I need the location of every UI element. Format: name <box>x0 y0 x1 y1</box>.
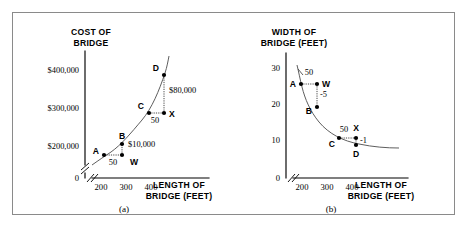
y-axis-title-line2: BRIDGE (FEET) <box>261 38 328 48</box>
annotation-rise-ab: $10,000 <box>128 140 155 149</box>
y-tick-label-20: 20 <box>271 99 280 109</box>
point-label-c: C <box>138 101 144 111</box>
chart-panel-b: WIDTH OF BRIDGE (FEET) 30 20 10 0 200 30… <box>231 13 453 216</box>
x-axis-title-line2: BRIDGE (FEET) <box>348 191 415 201</box>
y-tick-label-10: 10 <box>271 135 280 145</box>
annotation-run-cx: 50 <box>340 125 348 134</box>
y-axis-title-line1: WIDTH OF <box>272 27 316 37</box>
point-label-d: D <box>153 63 159 73</box>
x-axis-title-line1: LENGTH OF <box>355 180 407 190</box>
point-label-x: X <box>169 109 175 119</box>
point-label-w: W <box>130 157 139 167</box>
data-point-d <box>162 73 166 77</box>
annotation-drop-ab: -5 <box>320 90 327 99</box>
figure-frame: COST OF BRIDGE $400,000 $300,000 $200,00… <box>12 12 455 215</box>
annotation-rise-cd: $80,000 <box>169 86 196 95</box>
y-tick-label-0: 0 <box>276 173 280 183</box>
data-point-w <box>315 82 319 86</box>
y-axis-title-line1: COST OF <box>71 27 111 37</box>
point-label-b: B <box>119 131 125 141</box>
data-point-c <box>337 136 341 140</box>
point-label-x: X <box>353 123 359 133</box>
x-tick-label-300: 300 <box>120 182 133 192</box>
data-point-d <box>354 143 358 147</box>
data-point-c <box>147 111 151 115</box>
annotation-run-aw: 50 <box>109 158 117 167</box>
y-tick-label-400000: $400,000 <box>48 66 79 75</box>
data-point-w <box>120 153 124 157</box>
data-point-a <box>299 82 303 86</box>
data-point-b <box>315 105 319 109</box>
x-axis-title-line1: LENGTH OF <box>153 180 205 190</box>
y-axis-title-line2: BRIDGE <box>74 38 109 48</box>
x-tick-label-200: 200 <box>296 182 309 192</box>
x-tick-label-300: 300 <box>321 182 334 192</box>
data-point-b <box>120 142 124 146</box>
chart-panel-a: COST OF BRIDGE $400,000 $300,000 $200,00… <box>13 13 235 216</box>
point-label-a: A <box>93 146 99 156</box>
y-tick-label-200000: $200,000 <box>48 142 79 151</box>
data-point-a <box>102 153 106 157</box>
x-axis-title-line2: BRIDGE (FEET) <box>146 191 213 201</box>
data-point-x <box>354 136 358 140</box>
y-axis-origin-label: 0 <box>75 173 79 183</box>
point-label-b: B <box>306 106 312 116</box>
y-tick-label-300000: $300,000 <box>48 104 79 113</box>
panel-caption-b: (b) <box>326 204 337 214</box>
point-label-c: C <box>329 139 335 149</box>
annotation-run-aw: 50 <box>305 68 313 77</box>
point-label-a: A <box>290 79 296 89</box>
y-tick-label-30: 30 <box>271 63 280 73</box>
annotation-drop-cd: -1 <box>360 136 367 145</box>
width-curve <box>297 65 399 148</box>
point-label-d: D <box>353 149 359 159</box>
annotation-run-cx: 50 <box>151 116 159 125</box>
data-point-x <box>162 111 166 115</box>
panel-caption-a: (a) <box>119 204 129 214</box>
point-label-w: W <box>322 79 331 89</box>
x-tick-label-200: 200 <box>95 182 108 192</box>
